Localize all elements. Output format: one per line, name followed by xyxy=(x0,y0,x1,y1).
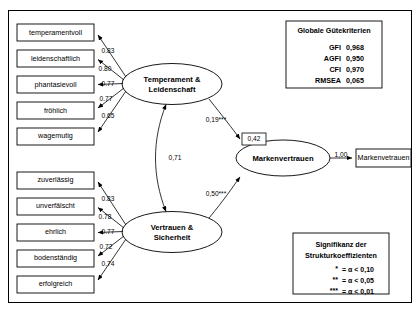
indicator-label-phantasievoll: phantasievoll xyxy=(35,80,77,89)
indicator-label-froehlich: fröhlich xyxy=(44,106,67,115)
significance-text-3: = α < 0,01 xyxy=(342,288,374,296)
diagram-canvas: temperamentvoll leidenschaftlich phantas… xyxy=(0,0,420,313)
latent-label-temperament-line1: Temperament & xyxy=(144,75,201,84)
significance-stars-3: *** xyxy=(330,287,338,294)
fit-value-gfi: 0,968 xyxy=(346,43,364,52)
global-fit-box: Globale Gütekriterien GFI 0,968 AGFI 0,9… xyxy=(286,21,382,88)
indicator-label-zuverlaessig: zuverlässig xyxy=(38,175,74,184)
loading-value-wagemutig: 0.65 xyxy=(102,112,115,119)
significance-text-2: = α < 0,05 xyxy=(342,277,374,285)
loading-value-bodenstaendig: 0.72 xyxy=(100,243,113,250)
loading-value-froehlich: 0.77 xyxy=(100,95,113,102)
structural-coefficient-vertrauen: 0,50*** xyxy=(206,190,227,197)
significance-title-line2: Strukturkoeffizienten xyxy=(305,251,377,260)
loading-value-leidenschaftlich: 0.80 xyxy=(99,65,112,72)
fit-value-agfi: 0,950 xyxy=(346,54,364,63)
loading-value-temperamentvoll: 0.83 xyxy=(102,47,115,54)
correlation-value: 0,71 xyxy=(169,154,182,161)
latent-label-vertrauen-line2: Sicherheit xyxy=(154,233,191,242)
fit-value-cfi: 0,970 xyxy=(346,65,364,74)
measurement-loading-markenvertrauen: 1,00 xyxy=(335,151,348,158)
significance-title-line1: Signifikanz der xyxy=(315,240,366,249)
significance-stars-2: ** xyxy=(333,276,339,283)
significance-legend-box: Signifikanz der Strukturkoeffizienten * … xyxy=(293,233,389,296)
indicator-label-leidenschaftlich: leidenschaftlich xyxy=(31,54,80,63)
latent-label-markenvertrauen: Markenvertrauen xyxy=(252,154,314,163)
indicator-label-unverfaelscht: unverfälscht xyxy=(36,201,75,210)
indicator-label-ehrlich: ehrlich xyxy=(45,227,66,236)
indicator-label-temperamentvoll: temperamentvoll xyxy=(29,28,83,37)
latent-ellipse-vertrauen xyxy=(122,212,222,253)
significance-stars-1: * xyxy=(335,265,338,272)
r-squared-value: 0,42 xyxy=(248,135,261,142)
loading-value-erfolgreich: 0.74 xyxy=(102,260,115,267)
latent-label-vertrauen-line1: Vertrauen & xyxy=(151,223,194,232)
global-fit-title: Globale Gütekriterien xyxy=(297,26,370,35)
fit-name-agfi: AGFI xyxy=(324,54,341,63)
loading-value-unverfaelscht: 0.78 xyxy=(99,213,112,220)
loading-value-ehrlich: 0.77 xyxy=(102,228,115,235)
indicator-label-wagemutig: wagemutig xyxy=(37,131,73,140)
fit-name-cfi: CFI xyxy=(329,65,341,74)
significance-text-1: = α < 0,10 xyxy=(342,266,374,274)
fit-name-gfi: GFI xyxy=(329,43,341,52)
latent-ellipse-temperament xyxy=(122,64,222,105)
latent-label-temperament-line2: Leidenschaft xyxy=(149,85,196,94)
loading-value-zuverlaessig: 0.83 xyxy=(102,195,115,202)
loading-value-phantasievoll: 0.77 xyxy=(102,80,115,87)
fit-value-rmsea: 0,065 xyxy=(346,76,364,85)
indicator-label-erfolgreich: erfolgreich xyxy=(39,279,73,288)
structural-coefficient-temperament: 0,19*** xyxy=(206,116,227,123)
sem-path-diagram: temperamentvoll leidenschaftlich phantas… xyxy=(0,0,420,313)
indicator-label-bodenstaendig: bodenständig xyxy=(34,253,77,262)
indicator-label-markenvetrauen: Markenvetrauen xyxy=(358,153,410,162)
fit-name-rmsea: RMSEA xyxy=(315,76,341,85)
